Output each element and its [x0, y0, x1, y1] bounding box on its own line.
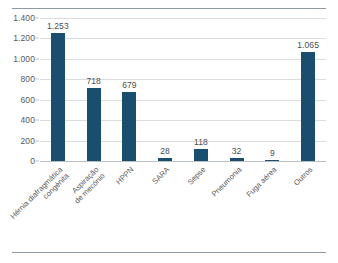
x-label-slot: HPPN — [112, 163, 148, 253]
y-axis-tick-label: 1.200 — [13, 33, 35, 43]
x-label-slot: SARA — [147, 163, 183, 253]
bar-slot: 1.065 — [290, 18, 326, 161]
bar-slot: 679 — [112, 18, 148, 161]
x-axis-category-label-line1: SARA — [150, 165, 171, 186]
y-axis-tick-label: 200 — [21, 136, 35, 146]
plot-area: 02004006008001.0001.2001.400 1.253718679… — [40, 18, 326, 161]
y-axis-tick-mark — [35, 161, 39, 162]
bar[interactable] — [158, 158, 172, 161]
x-axis-category-label: SARA — [150, 165, 171, 186]
x-label-slot: Hérnia diafragmáticacongénita — [40, 163, 76, 253]
bar-slot: 32 — [219, 18, 255, 161]
bar[interactable] — [87, 88, 101, 161]
y-axis-tick-label: 400 — [21, 115, 35, 125]
bar[interactable] — [301, 52, 315, 161]
x-axis-line — [40, 161, 326, 162]
bar-value-label: 679 — [122, 80, 136, 90]
y-axis-tick-mark — [35, 120, 39, 121]
bar-slot: 1.253 — [40, 18, 76, 161]
bar[interactable] — [194, 149, 208, 161]
figure-top-rule — [12, 8, 326, 9]
x-label-slot: Pneumonia — [219, 163, 255, 253]
bar-value-label: 9 — [270, 148, 275, 158]
bar-value-label: 28 — [160, 146, 170, 156]
y-axis-tick-mark — [35, 58, 39, 59]
y-axis-tick-mark — [35, 79, 39, 80]
bar-slot: 118 — [183, 18, 219, 161]
x-axis-category-label: Hérnia diafragmáticacongénita — [8, 165, 71, 228]
y-axis-tick-label: 1.000 — [13, 54, 35, 64]
x-axis-category-label: Sepse — [186, 165, 208, 187]
y-axis-tick-label: 800 — [21, 74, 35, 84]
bar[interactable] — [51, 33, 65, 161]
bar-value-label: 118 — [194, 137, 208, 147]
bar-value-label: 1.253 — [47, 21, 69, 31]
bar[interactable] — [122, 92, 136, 161]
x-axis-category-label: Outros — [292, 165, 315, 188]
y-axis-tick-label: 0 — [30, 156, 35, 166]
bar-value-label: 1.065 — [297, 40, 319, 50]
bar-slot: 9 — [255, 18, 291, 161]
bar-value-label: 32 — [232, 146, 242, 156]
bar-chart-figure: 02004006008001.0001.2001.400 1.253718679… — [0, 0, 338, 263]
bars-group: 1.253718679281183291.065 — [40, 18, 326, 161]
x-axis-category-label-line1: Sepse — [186, 165, 208, 187]
y-axis-tick-mark — [35, 18, 39, 19]
bar[interactable] — [265, 160, 279, 161]
y-axis-tick-mark — [35, 99, 39, 100]
y-axis-tick-label: 1.400 — [13, 13, 35, 23]
x-axis-category-label: HPPN — [114, 165, 136, 187]
bar-slot: 28 — [147, 18, 183, 161]
x-label-slot: Fuga aérea — [255, 163, 291, 253]
x-axis-category-label-line1: HPPN — [114, 165, 135, 186]
bar[interactable] — [230, 158, 244, 161]
x-axis-category-label-line1: Outros — [292, 165, 314, 187]
y-axis-tick-label: 600 — [21, 95, 35, 105]
x-label-slot: Sepse — [183, 163, 219, 253]
bar-slot: 718 — [76, 18, 112, 161]
x-label-slot: Outros — [290, 163, 326, 253]
x-label-slot: Aspiraçãode mecónio — [76, 163, 112, 253]
y-axis-tick-mark — [35, 38, 39, 39]
x-axis-category-labels: Hérnia diafragmáticacongénitaAspiraçãode… — [40, 163, 326, 253]
bar-value-label: 718 — [86, 76, 100, 86]
y-axis-tick-mark — [35, 140, 39, 141]
